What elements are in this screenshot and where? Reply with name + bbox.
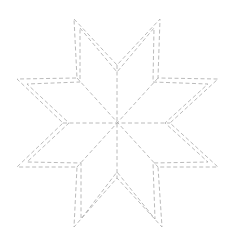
star-inner-seam-outline: [27, 28, 208, 219]
star-diagram: [0, 0, 237, 238]
spoke-line: [77, 78, 158, 167]
